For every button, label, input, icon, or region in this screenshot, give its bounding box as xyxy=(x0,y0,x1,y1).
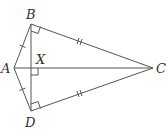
right-angle-marker-d xyxy=(31,102,41,109)
segment-dc xyxy=(31,68,153,111)
label-d: D xyxy=(24,115,36,130)
label-c: C xyxy=(156,61,166,76)
kite-diagram: B A X C D xyxy=(0,0,168,132)
right-angle-marker-x xyxy=(31,68,38,75)
right-angle-marker-b xyxy=(31,27,41,34)
label-x: X xyxy=(35,52,46,67)
label-b: B xyxy=(25,7,36,22)
label-a: A xyxy=(0,61,10,76)
segment-bc xyxy=(31,24,153,68)
